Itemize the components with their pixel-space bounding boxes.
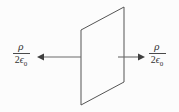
field-label-right-numerator: ρ bbox=[140, 41, 174, 53]
field-label-left: ρ 2ϵ0 bbox=[4, 41, 38, 68]
charged-plane-shape bbox=[81, 7, 124, 105]
field-label-left-denominator: 2ϵ0 bbox=[4, 54, 38, 68]
field-label-right-denominator: 2ϵ0 bbox=[140, 54, 174, 68]
field-label-left-numerator: ρ bbox=[4, 41, 38, 53]
field-label-right: ρ 2ϵ0 bbox=[140, 41, 174, 68]
field-arrow-left bbox=[37, 54, 81, 61]
field-label-left-denominator-subscript: 0 bbox=[24, 60, 28, 68]
field-label-right-denominator-subscript: 0 bbox=[160, 60, 164, 68]
field-arrow-left-head bbox=[37, 54, 44, 61]
electric-field-plane-diagram: ρ 2ϵ0 ρ 2ϵ0 bbox=[0, 0, 179, 112]
